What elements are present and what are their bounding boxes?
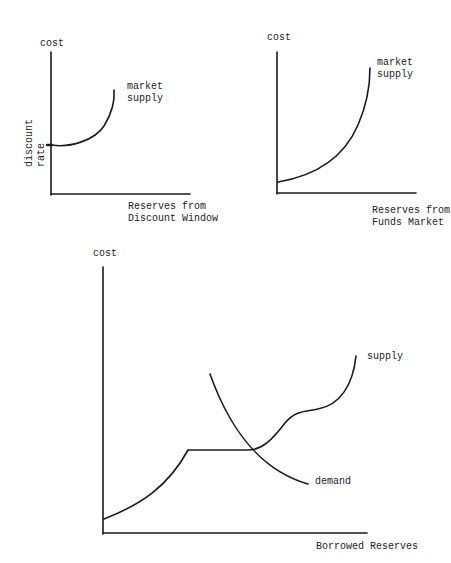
discount-window-curve-label-line2: supply <box>127 93 163 105</box>
funds-market-x-axis-label-line2: Funds Market <box>372 217 444 229</box>
discount-window-y-axis-label: cost <box>40 38 64 50</box>
discount-window-x-axis-label-line2: Discount Window <box>128 213 218 225</box>
funds-market-curve-label-line2: supply <box>377 69 413 81</box>
panel-borrowed-reserves-supply-curve <box>104 356 356 519</box>
panel-borrowed-reserves-axes <box>103 267 367 534</box>
discount-rate-label: discount rate <box>24 117 48 167</box>
borrowed-reserves-y-axis-label: cost <box>93 248 117 260</box>
funds-market-x-axis-label-line1: Reserves from <box>372 205 450 217</box>
panel-borrowed-reserves-demand-curve <box>210 374 308 484</box>
panel-discount-window-supply-curve <box>52 90 114 146</box>
panel-discount-window-axes <box>47 52 190 195</box>
discount-rate-label-line1: discount rate <box>24 117 48 167</box>
funds-market-y-axis-label: cost <box>267 32 291 44</box>
demand-curve-label: demand <box>315 476 351 488</box>
discount-window-curve-label-line1: market <box>127 81 163 93</box>
panel-funds-market-supply-curve <box>278 68 370 182</box>
discount-window-x-axis-label-line1: Reserves from <box>128 201 206 213</box>
funds-market-curve-label-line1: market <box>377 57 413 69</box>
diagram-canvas <box>0 0 451 563</box>
supply-curve-label: supply <box>367 351 403 363</box>
borrowed-reserves-x-axis-label: Borrowed Reserves <box>316 541 418 553</box>
